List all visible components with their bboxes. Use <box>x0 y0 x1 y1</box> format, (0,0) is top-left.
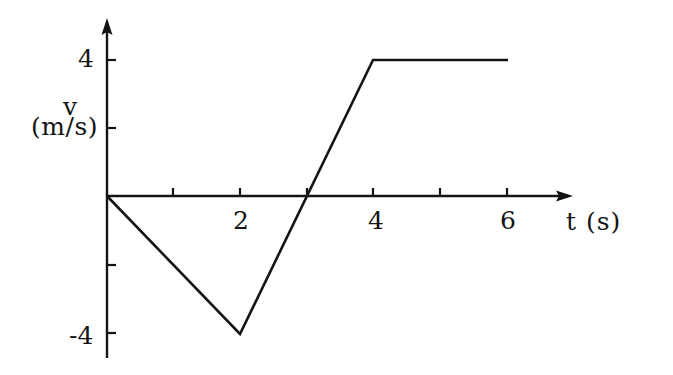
y-axis-title-units: (m/s) <box>31 114 98 139</box>
y-tick-label-4: 4 <box>78 46 94 71</box>
x-tick-label-4: 4 <box>368 208 384 233</box>
y-tick-label-minus-4: -4 <box>69 323 93 348</box>
x-axis-group <box>107 188 573 202</box>
x-axis-title: t (s) <box>566 209 621 234</box>
velocity-time-figure: v (m/s) 4 -4 2 4 6 t (s) <box>0 0 673 375</box>
x-tick-label-6: 6 <box>500 208 516 233</box>
x-tick-label-2: 2 <box>233 208 249 233</box>
y-axis-group <box>102 18 117 358</box>
graph-canvas <box>0 0 673 375</box>
